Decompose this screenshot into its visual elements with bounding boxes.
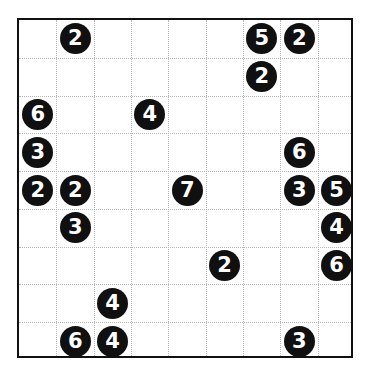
gridline-vertical-4 [168, 20, 169, 356]
clue-circle[interactable]: 3 [60, 212, 91, 243]
clue-circle[interactable]: 2 [60, 23, 91, 54]
gridline-horizontal-3 [19, 133, 351, 134]
gridline-horizontal-1 [19, 58, 351, 59]
gridline-vertical-2 [94, 20, 95, 356]
clue-circle[interactable]: 3 [22, 137, 53, 168]
clue-circle[interactable]: 2 [209, 250, 240, 281]
gridline-vertical-8 [318, 20, 319, 356]
clue-circle[interactable]: 4 [97, 288, 128, 319]
clue-circle[interactable]: 5 [321, 175, 352, 206]
puzzle-grid[interactable]: 252264362273534264643 [17, 18, 353, 358]
clue-circle[interactable]: 4 [321, 212, 352, 243]
clue-circle[interactable]: 6 [284, 137, 315, 168]
clue-circle[interactable]: 6 [321, 250, 352, 281]
gridline-horizontal-7 [19, 284, 351, 285]
clue-circle[interactable]: 6 [60, 326, 91, 357]
gridline-vertical-3 [131, 20, 132, 356]
clue-circle[interactable]: 3 [284, 326, 315, 357]
clue-circle[interactable]: 4 [134, 99, 165, 130]
gridline-vertical-6 [243, 20, 244, 356]
gridline-vertical-7 [280, 20, 281, 356]
gridline-horizontal-8 [19, 322, 351, 323]
gridline-horizontal-4 [19, 171, 351, 172]
clue-circle[interactable]: 4 [97, 326, 128, 357]
gridline-vertical-5 [206, 20, 207, 356]
clue-circle[interactable]: 6 [22, 99, 53, 130]
clue-circle[interactable]: 7 [172, 175, 203, 206]
puzzle-canvas: 252264362273534264643 [0, 0, 374, 377]
gridline-vertical-1 [56, 20, 57, 356]
clue-circle[interactable]: 3 [284, 175, 315, 206]
gridline-horizontal-2 [19, 96, 351, 97]
clue-circle[interactable]: 2 [60, 175, 91, 206]
clue-circle[interactable]: 2 [22, 175, 53, 206]
clue-circle[interactable]: 2 [284, 23, 315, 54]
gridline-horizontal-5 [19, 209, 351, 210]
gridline-horizontal-6 [19, 247, 351, 248]
